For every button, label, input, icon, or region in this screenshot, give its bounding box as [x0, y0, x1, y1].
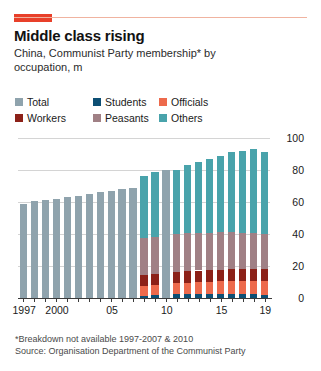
bar-segment-peasants: [151, 237, 158, 274]
bar-segment-workers: [250, 269, 257, 281]
bar-2016[interactable]: [228, 152, 235, 298]
bar-2001[interactable]: [64, 197, 71, 298]
bar-2005[interactable]: [108, 191, 115, 298]
bar-segment-workers: [195, 271, 202, 283]
bar-2007[interactable]: [129, 188, 136, 298]
bar-1997[interactable]: [20, 204, 27, 298]
bar-2014[interactable]: [206, 159, 213, 298]
bar-segment-peasants: [261, 234, 268, 269]
bar-segment-others: [140, 176, 147, 238]
bar-segment-officials: [206, 282, 213, 294]
bar-segment-others: [250, 149, 257, 233]
bar-segment-peasants: [239, 233, 246, 269]
bar-segment-workers: [228, 269, 235, 281]
bar-segment-others: [217, 156, 224, 233]
x-axis-tick: [155, 298, 156, 302]
legend-item-peasants[interactable]: Peasants: [93, 112, 159, 124]
bar-2002[interactable]: [75, 196, 82, 298]
x-axis-tick: [232, 298, 233, 302]
legend-label: Students: [105, 96, 146, 108]
legend-item-students[interactable]: Students: [93, 96, 159, 108]
bar-2000[interactable]: [53, 199, 60, 298]
legend-row: WorkersPeasantsOthers: [15, 111, 265, 124]
footnote-source: Source: Organisation Department of the C…: [15, 345, 310, 357]
legend-row: TotalStudentsOfficials: [15, 95, 265, 108]
bar-2013[interactable]: [195, 162, 202, 298]
chart-legend: TotalStudentsOfficialsWorkersPeasantsOth…: [15, 95, 265, 127]
bar-2008[interactable]: [140, 176, 147, 298]
legend-swatch-icon: [15, 98, 23, 106]
legend-label: Total: [27, 96, 49, 108]
x-axis-label: 2000: [45, 304, 68, 316]
bar-segment-workers: [206, 270, 213, 282]
bar-2019[interactable]: [261, 152, 268, 298]
y-axis-label: 60: [274, 196, 304, 208]
legend-swatch-icon: [159, 98, 167, 106]
bar-segment-others: [151, 172, 158, 237]
bar-segment-others: [228, 152, 235, 232]
bar-segment-peasants: [217, 232, 224, 269]
chart-subtitle: China, Communist Party membership* by oc…: [14, 47, 254, 74]
bar-segment-others: [261, 152, 268, 234]
bar-2010[interactable]: [162, 170, 169, 298]
x-axis-tick: [100, 298, 101, 302]
x-axis-tick: [133, 298, 134, 302]
x-axis-label: 10: [161, 304, 173, 316]
bar-1999[interactable]: [42, 200, 49, 298]
y-axis-label: 40: [274, 228, 304, 240]
legend-label: Workers: [27, 112, 66, 124]
legend-label: Others: [171, 112, 203, 124]
bar-2004[interactable]: [97, 192, 104, 298]
bar-segment-peasants: [250, 233, 257, 269]
x-axis-tick: [23, 298, 24, 302]
bar-2003[interactable]: [86, 194, 93, 298]
x-axis-label: 05: [106, 304, 118, 316]
x-axis-tick: [221, 298, 222, 302]
legend-label: Peasants: [105, 112, 149, 124]
bar-segment-others: [206, 159, 213, 233]
brand-tab: [14, 14, 52, 22]
bar-segment-officials: [140, 286, 147, 296]
bar-segment-others: [195, 162, 202, 233]
legend-item-total[interactable]: Total: [15, 96, 93, 108]
bar-2017[interactable]: [239, 151, 246, 298]
bar-segment-officials: [250, 281, 257, 294]
bar-segment-workers: [151, 274, 158, 285]
bar-2011[interactable]: [173, 170, 180, 298]
bar-group: [18, 138, 270, 298]
legend-swatch-icon: [93, 98, 101, 106]
bar-segment-peasants: [173, 234, 180, 272]
bar-segment-workers: [261, 269, 268, 281]
bar-2015[interactable]: [217, 156, 224, 298]
bar-2006[interactable]: [118, 189, 125, 298]
legend-item-officials[interactable]: Officials: [159, 96, 225, 108]
x-axis-label: 19: [260, 304, 272, 316]
x-axis-tick: [188, 298, 189, 302]
chart-card: Middle class rising China, Communist Par…: [0, 0, 321, 371]
x-axis-tick: [56, 298, 57, 302]
bar-1998[interactable]: [31, 201, 38, 298]
y-axis-label: 100: [274, 132, 304, 144]
bar-2018[interactable]: [250, 149, 257, 298]
bar-segment-workers: [184, 271, 191, 283]
x-axis-tick: [199, 298, 200, 302]
y-axis-label: 80: [274, 164, 304, 176]
x-axis-tick: [89, 298, 90, 302]
x-axis-label: 1997: [12, 304, 35, 316]
bar-segment-officials: [184, 283, 191, 295]
legend-item-others[interactable]: Others: [159, 112, 225, 124]
bar-segment-peasants: [140, 238, 147, 275]
bar-segment-officials: [239, 281, 246, 294]
legend-item-workers[interactable]: Workers: [15, 112, 93, 124]
y-axis-label: 20: [274, 260, 304, 272]
x-axis-tick: [210, 298, 211, 302]
x-axis-tick: [45, 298, 46, 302]
x-axis-tick: [78, 298, 79, 302]
x-axis-tick: [67, 298, 68, 302]
bar-2009[interactable]: [151, 172, 158, 298]
bar-segment-officials: [261, 281, 268, 295]
bar-segment-officials: [217, 281, 224, 293]
bar-2012[interactable]: [184, 165, 191, 298]
x-axis-tick: [166, 298, 167, 302]
bar-segment-officials: [228, 281, 235, 294]
